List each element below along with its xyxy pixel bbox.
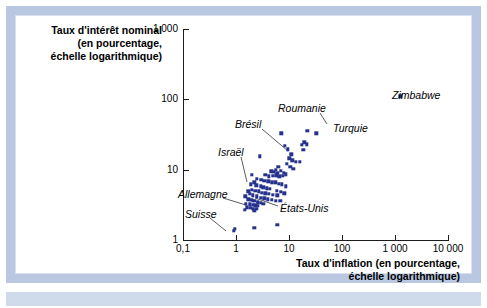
x-tick-label: 10 000	[433, 243, 464, 254]
annotation-turquie: Turquie	[333, 123, 368, 134]
y-axis-line	[183, 29, 184, 240]
y-axis-title-line-2: (en pourcentage,	[16, 37, 162, 50]
x-tick-label: 100	[334, 243, 351, 254]
annotation-isra-l: Israël	[218, 147, 244, 158]
x-axis-line	[183, 240, 449, 241]
data-point	[268, 187, 271, 190]
data-point	[276, 223, 279, 226]
data-point-turquie	[315, 131, 318, 134]
data-point	[281, 174, 284, 177]
data-point	[262, 179, 265, 182]
data-point	[298, 160, 301, 163]
annotation-allemagne: Allemagne	[178, 189, 228, 200]
y-tick	[184, 99, 189, 100]
y-tick	[184, 29, 189, 30]
y-tick-label: 100	[161, 94, 178, 104]
data-point	[244, 194, 247, 197]
data-point	[252, 226, 255, 229]
data-point-roumanie	[305, 129, 308, 132]
data-point	[233, 227, 236, 230]
data-point	[250, 173, 253, 176]
figure-root: Taux d'intérêt nominal (en pourcentage, …	[0, 0, 487, 308]
data-point	[255, 177, 258, 180]
data-point	[254, 184, 257, 187]
x-tick	[236, 235, 237, 240]
data-point	[274, 199, 277, 202]
x-axis-title-line-2: échelle logarithmique)	[210, 270, 460, 283]
leader-line	[262, 129, 288, 151]
annotation-roumanie: Roumanie	[278, 103, 326, 114]
annotation-suisse: Suisse	[185, 209, 217, 220]
data-point	[269, 170, 272, 173]
data-point	[289, 153, 292, 156]
y-tick-label: 10	[167, 165, 178, 175]
y-axis-title-line-3: échelle logarithmique)	[16, 50, 162, 63]
annotation-zimbabwe: Zimbabwe	[392, 90, 440, 101]
data-point	[305, 143, 308, 146]
x-tick	[342, 235, 343, 240]
y-tick	[184, 240, 189, 241]
data-point	[247, 190, 250, 193]
data-point	[249, 183, 252, 186]
x-tick	[289, 235, 290, 240]
y-axis-title: Taux d'intérêt nominal (en pourcentage, …	[16, 24, 162, 63]
x-tick-label: 10	[283, 243, 294, 254]
x-tick	[448, 235, 449, 240]
data-point	[291, 167, 294, 170]
data-point	[251, 194, 254, 197]
annotation--tats-unis: États-Unis	[280, 203, 328, 214]
data-point	[301, 148, 304, 151]
x-tick-label: 1	[233, 243, 239, 254]
leader-line	[241, 157, 247, 182]
data-point	[267, 192, 270, 195]
data-point	[243, 208, 246, 211]
data-point	[300, 143, 303, 146]
data-point	[276, 194, 279, 197]
y-tick	[184, 170, 189, 171]
data-point	[284, 185, 287, 188]
data-point	[275, 174, 278, 177]
x-axis-title: Taux d'inflation (en pourcentage, échell…	[210, 257, 460, 283]
data-point	[264, 173, 267, 176]
x-axis-title-line-1: Taux d'inflation (en pourcentage,	[210, 257, 460, 270]
data-point	[270, 198, 273, 201]
x-tick-label: 0,1	[176, 243, 190, 254]
y-tick-label: 1 000	[153, 24, 178, 34]
data-point	[267, 175, 270, 178]
data-point-isra-l	[258, 155, 261, 158]
data-point	[271, 193, 274, 196]
data-point	[284, 173, 287, 176]
data-point	[275, 189, 278, 192]
x-tick	[395, 235, 396, 240]
x-tick	[183, 235, 184, 240]
data-point	[283, 192, 286, 195]
y-axis-title-line-1: Taux d'intérêt nominal	[16, 24, 162, 37]
data-point	[252, 209, 255, 212]
data-point	[278, 175, 281, 178]
annotation-br-sil: Brésil	[235, 119, 261, 130]
leader-line	[210, 218, 226, 231]
data-point	[294, 160, 297, 163]
scatter-plot: Taux d'intérêt nominal (en pourcentage, …	[0, 0, 487, 308]
data-point	[271, 174, 274, 177]
data-point	[286, 148, 289, 151]
leader-line	[320, 113, 327, 124]
data-point	[262, 202, 265, 205]
x-tick-label: 1 000	[382, 243, 407, 254]
data-point-br-sil	[280, 131, 283, 134]
